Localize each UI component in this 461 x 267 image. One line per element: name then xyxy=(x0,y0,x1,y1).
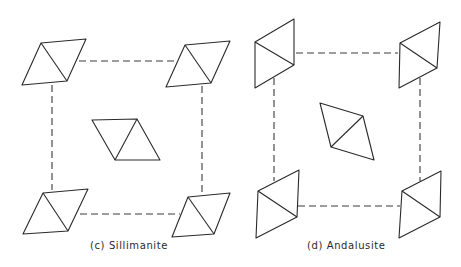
rhombus-diagonal xyxy=(258,191,297,217)
rhombus-diagonal xyxy=(331,116,363,147)
rhombus-diagonal xyxy=(188,197,214,234)
octahedron-top-left xyxy=(22,39,86,85)
rhombus-diagonal xyxy=(402,191,440,217)
rhombus-diagonal xyxy=(255,42,294,65)
octahedron-center xyxy=(320,103,374,160)
octahedron-bottom-left xyxy=(256,170,299,238)
octahedron-bottom-right xyxy=(399,171,441,238)
caption-andalusite: (d) Andalusite xyxy=(307,240,386,251)
octahedron-center xyxy=(92,119,160,160)
figure-d xyxy=(255,19,441,238)
rhombus-diagonal xyxy=(185,45,211,83)
octahedron-top-left xyxy=(255,19,294,88)
octahedron-bottom-right xyxy=(172,193,230,237)
rhombus-outline xyxy=(399,171,441,238)
octahedron-bottom-left xyxy=(23,189,88,234)
rhombus-diagonal xyxy=(400,43,437,68)
figure-c xyxy=(22,39,230,237)
caption-sillimanite: (c) Sillimanite xyxy=(90,240,168,251)
rhombus-diagonal xyxy=(41,43,67,81)
rhombus-diagonal xyxy=(115,119,137,160)
rhombus-diagonal xyxy=(43,193,68,231)
octahedron-top-right xyxy=(166,41,230,87)
crystal-structure-diagram xyxy=(0,0,461,267)
